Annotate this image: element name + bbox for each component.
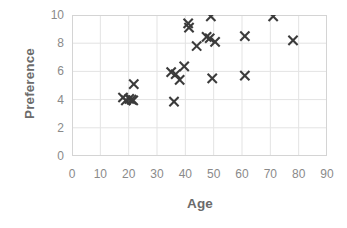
y-axis-tick-label: 0	[24, 150, 64, 162]
y-axis-tick-label: 2	[24, 122, 64, 134]
data-point-marker	[129, 79, 138, 88]
y-axis-tick-label: 6	[24, 65, 64, 77]
x-axis-title: Age	[72, 196, 328, 211]
data-point-marker	[208, 74, 217, 83]
y-axis-tick-label: 8	[24, 37, 64, 49]
data-point-marker	[180, 62, 189, 71]
x-axis-tick-label: 90	[307, 168, 347, 180]
data-point-marker	[169, 97, 178, 106]
y-axis-tick-label: 4	[24, 94, 64, 106]
plot-svg	[72, 15, 327, 156]
scatter-chart: Preference Age 0246810 01020304050607080…	[0, 0, 347, 228]
plot-area	[72, 15, 327, 156]
data-point-marker	[175, 75, 184, 84]
y-axis-tick-label: 10	[24, 9, 64, 21]
